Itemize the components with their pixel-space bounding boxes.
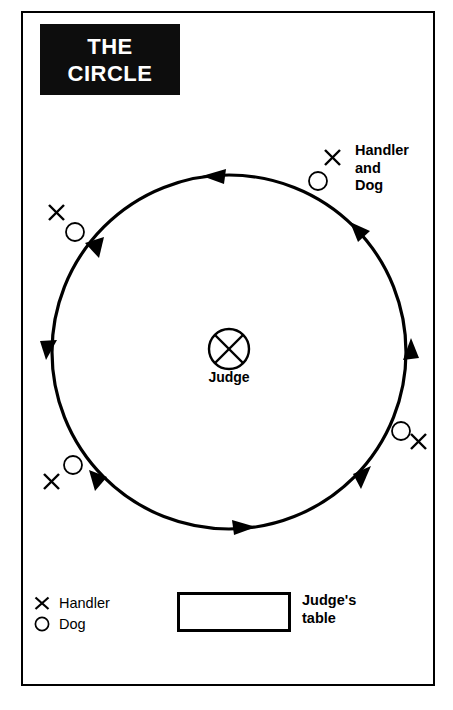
judge-label: Judge <box>179 369 279 385</box>
judges-table-rect <box>177 592 291 632</box>
legend-label-handler: Handler <box>55 595 110 611</box>
judges-table-line-2: table <box>302 610 412 628</box>
title-plate: THE CIRCLE <box>40 24 180 95</box>
diagram-page: THE CIRCLE <box>0 0 453 710</box>
judges-table-label: Judge's table <box>302 592 412 627</box>
legend-label-dog: Dog <box>55 616 86 632</box>
title-line-1: THE <box>87 33 133 60</box>
legend: Handler Dog <box>33 592 163 634</box>
circle-outline-icon <box>33 613 55 634</box>
handler-and-dog-line-3: Dog <box>355 177 437 195</box>
x-mark-icon <box>33 592 55 613</box>
handler-and-dog-line-2: and <box>355 160 437 178</box>
judges-table-line-1: Judge's <box>302 592 412 610</box>
handler-and-dog-line-1: Handler <box>355 142 437 160</box>
legend-item-dog: Dog <box>33 613 163 634</box>
legend-item-handler: Handler <box>33 592 163 613</box>
title-line-2: CIRCLE <box>68 60 153 87</box>
handler-and-dog-label: Handler and Dog <box>355 142 437 195</box>
